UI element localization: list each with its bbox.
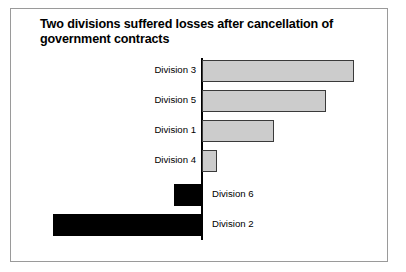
bar-label-division-5: Division 5 — [154, 93, 196, 107]
bar-label-division-3: Division 3 — [154, 63, 196, 77]
bar-label-division-4: Division 4 — [154, 153, 196, 167]
bar-division-4[interactable] — [202, 150, 217, 172]
bar-label-division-1: Division 1 — [154, 123, 196, 137]
bar-division-3[interactable] — [202, 60, 354, 82]
bar-division-2[interactable] — [53, 214, 202, 236]
bar-label-division-2: Division 2 — [212, 217, 254, 231]
bar-row: Division 4 — [0, 148, 406, 176]
bar-division-5[interactable] — [202, 90, 326, 112]
plot-area: Division 3 Division 5 Division 1 Divisio… — [0, 0, 406, 272]
bar-row: Division 3 — [0, 58, 406, 86]
bar-row: Division 5 — [0, 88, 406, 116]
figure: Two divisions suffered losses after canc… — [0, 0, 406, 272]
bar-row: Division 1 — [0, 118, 406, 146]
bar-row: Division 6 — [0, 182, 406, 210]
bar-division-1[interactable] — [202, 120, 274, 142]
bar-division-6[interactable] — [174, 184, 202, 206]
bar-label-division-6: Division 6 — [212, 187, 254, 201]
bar-row: Division 2 — [0, 212, 406, 240]
